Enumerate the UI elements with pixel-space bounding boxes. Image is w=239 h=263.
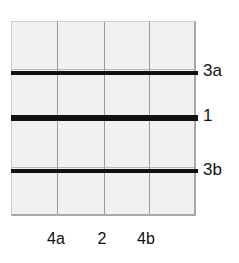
- col-label-4b: 4b: [126, 231, 166, 247]
- bold-line-1: [11, 115, 198, 121]
- figure-container: 3a 1 3b 4a 2 4b: [0, 0, 239, 263]
- row-label-3b: 3b: [203, 161, 222, 178]
- faint-gridline-3: [12, 167, 194, 168]
- col-label-4a: 4a: [36, 231, 76, 247]
- row-label-3a: 3a: [203, 62, 222, 79]
- grid-panel: [11, 21, 196, 216]
- bold-line-3b: [11, 169, 198, 173]
- bold-line-3a: [11, 71, 198, 75]
- row-label-1: 1: [203, 107, 212, 124]
- faint-gridline-1: [12, 69, 194, 70]
- col-label-2: 2: [82, 231, 122, 247]
